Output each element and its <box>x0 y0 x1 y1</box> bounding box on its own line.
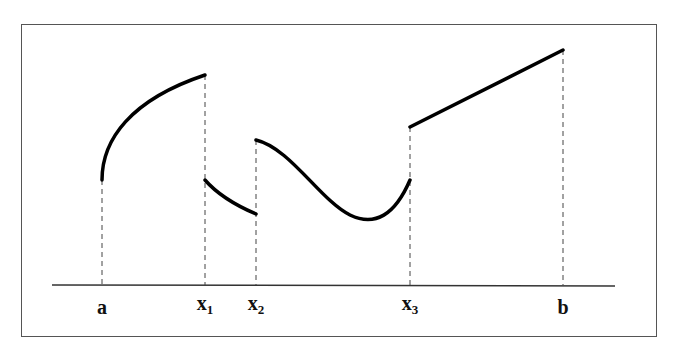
x-axis <box>52 285 615 286</box>
label-b: b <box>557 296 568 319</box>
segment-a-x1 <box>102 75 205 180</box>
label-a: a <box>97 296 107 319</box>
segment-x2-x3 <box>256 140 410 220</box>
label-x3: x3 <box>402 292 419 318</box>
label-x1: x1 <box>197 292 214 318</box>
segment-x1-x2 <box>205 180 256 214</box>
curve-segments <box>102 50 563 220</box>
label-x2: x2 <box>248 292 265 318</box>
segment-x3-b <box>410 50 563 127</box>
